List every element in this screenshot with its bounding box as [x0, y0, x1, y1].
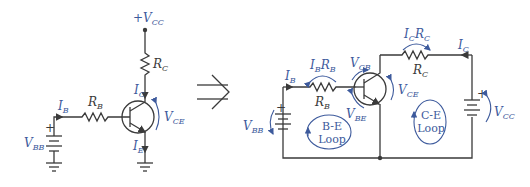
vbb-label: VBB — [243, 119, 264, 135]
vbb-arrow — [270, 110, 274, 134]
transistor-body — [354, 73, 386, 105]
vcc-plus: + — [477, 87, 487, 101]
rb-resistor — [292, 83, 356, 91]
vbb-label: VBB — [24, 136, 45, 152]
rb-label: RB — [87, 95, 103, 111]
vcc-battery-icon — [464, 100, 480, 115]
vce-arrow — [391, 80, 394, 100]
vbe-label: VBE — [346, 107, 367, 123]
be-loop-label-2: Loop — [318, 133, 346, 146]
transistor-emitter — [130, 123, 145, 132]
right-circuit: + + IB IBRB RB VCB VBE VCE ICRC RC IC VC… — [243, 27, 515, 160]
ce-loop-label: C-E — [421, 109, 441, 122]
transistor-collector — [130, 98, 145, 111]
ground-icon — [137, 163, 153, 171]
vce-arrow — [156, 103, 159, 130]
ic-label: IC — [457, 38, 469, 54]
ce-loop-label-2: Loop — [417, 122, 445, 135]
rc-label: RC — [412, 63, 428, 79]
vcc-label: VCC — [494, 105, 515, 121]
icrc-label: ICRC — [403, 27, 430, 43]
ib-label: IB — [284, 69, 296, 85]
vcc-label: +VCC — [133, 11, 164, 27]
vbb-plus: + — [45, 121, 55, 135]
vce-label: VCE — [398, 83, 419, 99]
ic-label: IC — [133, 83, 145, 99]
vce-label: VCE — [164, 110, 185, 126]
left-circuit: +VCC RC IC IE VCE IB RB — [24, 11, 185, 171]
ibrb-arrow — [310, 76, 336, 82]
vbe-arrow — [352, 94, 364, 108]
ibrb-label: IBRB — [309, 58, 336, 74]
vbb-plus: + — [276, 101, 286, 115]
rc-resistor — [380, 51, 462, 59]
ground-icon — [46, 163, 62, 171]
ie-label: IE — [132, 139, 144, 155]
transistor-emitter — [364, 95, 379, 104]
rc-label: RC — [152, 57, 168, 73]
rc-resistor — [141, 30, 149, 98]
ib-label: IB — [57, 99, 69, 115]
icrc-arrow — [403, 44, 430, 50]
be-loop-label: B-E — [322, 120, 342, 133]
rb-resistor — [62, 113, 130, 121]
implies-arrow-icon — [197, 75, 229, 109]
rb-label: RB — [314, 95, 330, 111]
bjt-circuit-diagram: +VCC RC IC IE VCE IB RB — [0, 0, 530, 187]
